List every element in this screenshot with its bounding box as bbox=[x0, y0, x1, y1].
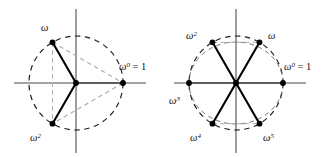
point-w2 bbox=[50, 121, 56, 127]
radius-w1 bbox=[236, 42, 260, 83]
radius-w4 bbox=[213, 83, 237, 124]
roots-of-unity-figure: ω0 = 1 ω ω2 bbox=[0, 0, 323, 157]
label-w1: ω bbox=[41, 22, 48, 33]
point-w0 bbox=[120, 80, 126, 86]
point-w1 bbox=[257, 39, 263, 45]
label-w3: ω3 bbox=[169, 95, 180, 107]
radius-w2 bbox=[53, 83, 77, 124]
radius-w1 bbox=[53, 42, 77, 83]
label-w5: ω5 bbox=[263, 132, 274, 144]
point-w1 bbox=[50, 39, 56, 45]
point-w2 bbox=[210, 39, 216, 45]
label-w2: ω2 bbox=[186, 30, 197, 42]
point-w0 bbox=[280, 80, 286, 86]
radius-w2 bbox=[213, 42, 237, 83]
label-w2: ω2 bbox=[30, 132, 41, 144]
point-origin bbox=[73, 80, 79, 86]
label-w0: ω0 = 1 bbox=[284, 61, 311, 73]
label-w1: ω bbox=[268, 30, 275, 41]
point-origin bbox=[233, 80, 239, 86]
point-w5 bbox=[257, 121, 263, 127]
diagram-cube-roots-of-unity: ω0 = 1 ω ω2 bbox=[0, 0, 161, 157]
point-w4 bbox=[210, 121, 216, 127]
diagram-sixth-roots-of-unity: ω0 = 1 ω ω2 ω3 ω4 ω5 bbox=[160, 0, 323, 157]
label-w0: ω0 = 1 bbox=[119, 61, 146, 73]
radius-w5 bbox=[236, 83, 260, 124]
label-w4: ω4 bbox=[190, 132, 201, 144]
point-w3 bbox=[186, 80, 192, 86]
